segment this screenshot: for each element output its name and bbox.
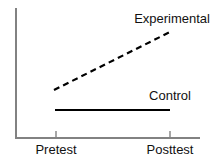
series-line-experimental (54, 31, 172, 90)
line-chart-figure: Experimental Control Pretest Posttest (0, 0, 214, 168)
x-tick-label-pretest: Pretest (35, 143, 76, 157)
x-tick-label-posttest: Posttest (147, 143, 194, 157)
series-label-experimental: Experimental (134, 12, 210, 26)
series-label-control: Control (149, 89, 191, 103)
